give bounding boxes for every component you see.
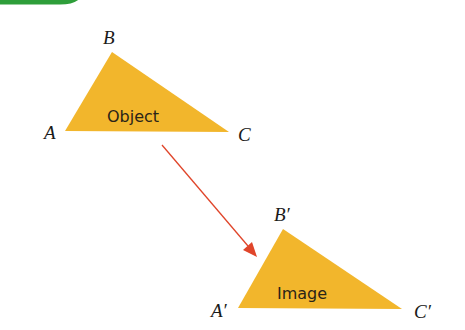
image-label: Image [277, 284, 327, 303]
object-triangle: Object B A C [42, 27, 251, 145]
translation-arrow [162, 145, 257, 257]
object-label: Object [107, 107, 159, 126]
vertex-c-prime-label: C′ [414, 301, 432, 322]
image-triangle: Image B′ A′ C′ [209, 204, 432, 322]
vertex-a-label: A [42, 122, 56, 143]
vertex-b-prime-label: B′ [274, 204, 291, 225]
vertex-a-prime-label: A′ [209, 300, 228, 321]
vertex-b-label: B [103, 27, 115, 48]
arrowhead-icon [243, 242, 257, 257]
translation-diagram: Object B A C Image B′ A′ C′ [0, 0, 465, 330]
vertex-c-label: C [238, 124, 251, 145]
header-bar [0, 0, 80, 2]
